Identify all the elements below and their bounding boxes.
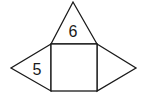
left-triangle-label: 5 — [33, 61, 42, 78]
left-triangle — [11, 44, 51, 91]
top-triangle-label: 6 — [69, 23, 78, 40]
net-svg: 6 5 — [0, 0, 147, 98]
center-square — [51, 44, 97, 91]
net-diagram: 6 5 — [0, 0, 147, 98]
right-triangle — [97, 44, 136, 91]
